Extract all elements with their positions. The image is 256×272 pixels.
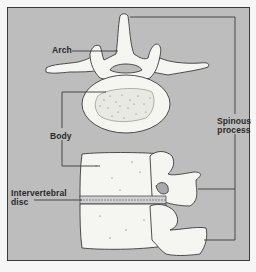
label-disc-line2: disc bbox=[11, 198, 71, 207]
spinous-leader-bottom bbox=[204, 134, 235, 240]
label-body: Body bbox=[50, 132, 72, 141]
label-spinous-line2: process bbox=[214, 126, 254, 135]
label-spinous-process: Spinous process bbox=[214, 117, 254, 135]
diagram-canvas: Arch Body Intervertebral disc Spinous pr… bbox=[0, 0, 256, 272]
label-arch: Arch bbox=[52, 46, 72, 55]
vertebra-illustration bbox=[0, 0, 256, 272]
label-intervertebral-disc: Intervertebral disc bbox=[11, 189, 71, 207]
top-vertebra bbox=[46, 14, 209, 133]
side-vertebrae bbox=[80, 152, 207, 256]
